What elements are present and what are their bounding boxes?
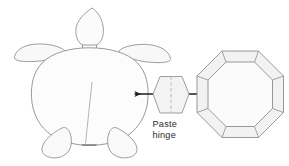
octagon-inner [208, 62, 273, 127]
craft-template-illustration: Paste hinge [0, 0, 289, 166]
paste-hinge-label-line2: hinge [153, 130, 176, 140]
paste-hinge-label-line1: Paste [153, 119, 178, 129]
paste-hinge-piece [153, 77, 189, 114]
octagon-shell-template [197, 51, 284, 138]
diagram-canvas: Paste hinge [0, 0, 289, 166]
turtle-shell [31, 48, 148, 146]
